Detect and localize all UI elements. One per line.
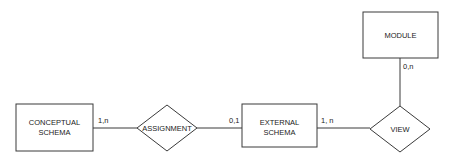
entity-conceptual-schema-label-1: CONCEPTUAL bbox=[29, 118, 80, 127]
cardinality-external-view: 1, n bbox=[321, 116, 334, 125]
cardinality-assignment-external: 0,1 bbox=[229, 116, 239, 125]
entity-external-schema-label-1: EXTERNAL bbox=[260, 118, 300, 127]
relationship-assignment-label: ASSIGNMENT bbox=[142, 124, 192, 133]
cardinality-conceptual-assignment: 1,n bbox=[98, 116, 108, 125]
relationship-view-label: VIEW bbox=[390, 125, 410, 134]
entity-module: MODULE bbox=[363, 12, 438, 58]
entity-external-schema-label-2: SCHEMA bbox=[263, 128, 295, 137]
relationship-assignment: ASSIGNMENT bbox=[137, 105, 197, 151]
cardinality-module-view: 0,n bbox=[403, 62, 413, 71]
entity-conceptual-schema: CONCEPTUAL SCHEMA bbox=[16, 104, 93, 151]
relationship-view: VIEW bbox=[370, 106, 430, 152]
er-diagram: CONCEPTUAL SCHEMA ASSIGNMENT EXTERNAL SC… bbox=[0, 0, 455, 161]
entity-external-schema: EXTERNAL SCHEMA bbox=[242, 104, 317, 147]
entity-module-label: MODULE bbox=[384, 31, 416, 40]
entity-conceptual-schema-label-2: SCHEMA bbox=[38, 128, 70, 137]
